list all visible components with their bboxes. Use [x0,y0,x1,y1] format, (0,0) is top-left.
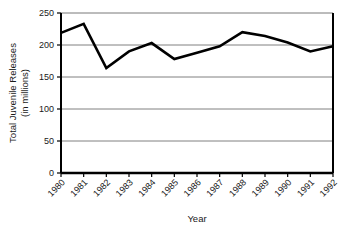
y-tick-label-150: 150 [39,72,54,82]
x-axis-title: Year [187,213,206,224]
chart-container: 050100150200250 198019811982198319841985… [0,0,343,230]
y-axis-title-line2: (in millions) [19,69,30,117]
y-axis-title-line1: Total Juvenile Releases [7,43,18,143]
y-tick-label-200: 200 [39,40,54,50]
y-tick-label-250: 250 [39,8,54,18]
line-chart: 050100150200250 198019811982198319841985… [0,0,343,230]
y-tick-label-50: 50 [44,136,54,146]
y-tick-label-100: 100 [39,104,54,114]
y-tick-label-0: 0 [49,168,54,178]
